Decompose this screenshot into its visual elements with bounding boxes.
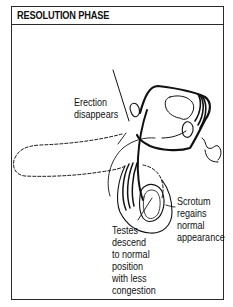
- label-testes: Testes descend to normal position with l…: [112, 224, 156, 296]
- penis-outline-dashed: [13, 134, 125, 176]
- seminal-vesicle: [182, 122, 193, 138]
- perineum-contour: [202, 138, 221, 162]
- testis-inner: [143, 190, 160, 219]
- label-scrotum: Scrotum regains normal appearance: [177, 195, 225, 243]
- bladder: [165, 96, 193, 119]
- testis-dashed: [143, 165, 163, 198]
- leader-line-scrotum: [166, 205, 175, 207]
- label-erection: Erection disappears: [74, 96, 118, 120]
- scrotum-inner-layers: [123, 163, 137, 210]
- prostate-oval: [130, 103, 139, 117]
